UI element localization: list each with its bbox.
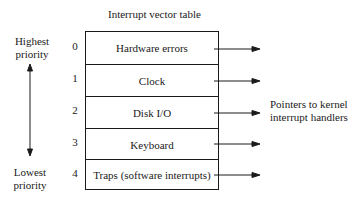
pointer-arrow-0 xyxy=(214,47,260,52)
pointer-arrow-1 xyxy=(214,79,260,84)
pointer-arrow-4 xyxy=(214,173,260,178)
priority-arrow-down-head xyxy=(28,149,33,156)
priority-arrow-up-head xyxy=(28,64,33,71)
pointer-arrow-2 xyxy=(214,111,260,116)
arrows-layer xyxy=(0,0,356,202)
pointer-arrow-3 xyxy=(214,142,260,147)
